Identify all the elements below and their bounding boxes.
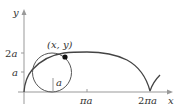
y-axis-arrow [22,9,27,15]
cycloid-curve [24,52,160,92]
point-marker [62,54,67,59]
x-tick-label-2pia: 2πa [138,95,157,106]
radius-label: a [56,77,62,88]
y-axis-label: y [12,7,19,18]
x-axis-arrow [167,90,173,95]
point-label: (x, y) [47,39,73,50]
y-tick-label-a: a [12,67,18,78]
x-axis-label: x [168,95,174,106]
x-tick-label-pia: πa [79,95,93,106]
cycloid-diagram: y x 2a a πa 2πa (x, y) a [0,0,183,110]
y-tick-label-2a: 2a [5,48,17,59]
